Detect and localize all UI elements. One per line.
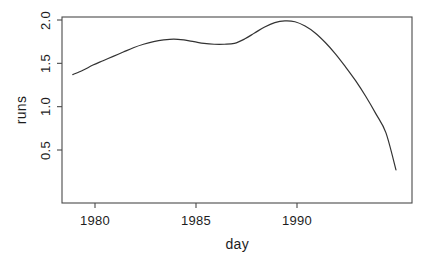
y-tick-label-1-0: 1.0 (38, 97, 53, 116)
y-tick-label-2-0: 2.0 (38, 11, 53, 30)
line-plot-canvas (0, 0, 434, 262)
x-tick-label-1985: 1985 (181, 213, 211, 228)
y-axis-title: runs (13, 96, 29, 124)
chart-figure: 2.0 1.5 1.0 0.5 1980 1985 1990 runs day (0, 0, 434, 262)
x-tick-label-1990: 1990 (282, 213, 312, 228)
x-axis-title: day (226, 236, 249, 252)
plot-background (0, 0, 434, 262)
x-tick-label-1980: 1980 (80, 213, 110, 228)
y-tick-label-0-5: 0.5 (38, 141, 53, 160)
y-tick-label-1-5: 1.5 (38, 54, 53, 73)
